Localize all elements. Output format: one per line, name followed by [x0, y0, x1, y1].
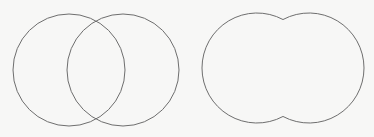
overlapping-circles-panel — [13, 14, 179, 126]
right-circle — [67, 14, 179, 126]
diagram-svg — [0, 0, 374, 137]
diagram-canvas — [0, 0, 374, 137]
union-outline — [202, 13, 364, 123]
left-circle — [13, 14, 125, 126]
union-outline-panel — [202, 13, 364, 123]
